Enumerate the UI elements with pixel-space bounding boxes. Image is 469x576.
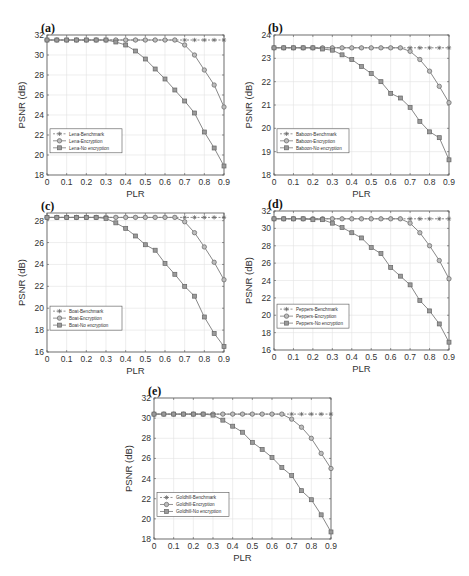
marker-square-icon — [55, 215, 59, 219]
y-tick-label: 26 — [142, 453, 152, 463]
y-tick-label: 20 — [262, 310, 272, 320]
marker-square-icon — [291, 217, 295, 221]
y-tick-label: 18 — [262, 328, 272, 338]
marker-square-icon — [398, 274, 402, 278]
marker-square-icon — [153, 67, 157, 71]
chart-panel-e: 00.10.20.30.40.50.60.70.80.9182022242628… — [123, 384, 337, 563]
x-tick-label: 0.8 — [198, 354, 210, 364]
y-tick-label: 22 — [35, 281, 45, 291]
marker-square-icon — [153, 248, 157, 252]
marker-square-icon — [134, 234, 138, 238]
marker-square-icon — [301, 46, 305, 50]
marker-star-icon — [57, 132, 61, 136]
marker-square-icon — [329, 530, 333, 534]
legend-entry: Lena-Encryption — [69, 139, 103, 144]
x-tick-label: 0.6 — [159, 354, 171, 364]
marker-star-icon — [192, 38, 196, 42]
marker-square-icon — [45, 215, 49, 219]
marker-circle-icon — [192, 231, 196, 235]
marker-square-icon — [182, 412, 186, 416]
x-tick-label: 0.5 — [139, 354, 151, 364]
marker-circle-icon — [340, 46, 344, 50]
marker-square-icon — [162, 412, 166, 416]
panel-label: (a) — [41, 21, 55, 35]
marker-circle-icon — [398, 46, 402, 50]
marker-square-icon — [143, 57, 147, 61]
x-tick-label: 0.4 — [346, 177, 358, 187]
marker-square-icon — [260, 447, 264, 451]
marker-circle-icon — [133, 38, 137, 42]
marker-circle-icon — [427, 244, 431, 248]
marker-star-icon — [182, 38, 186, 42]
marker-circle-icon — [340, 217, 344, 221]
marker-square-icon — [389, 265, 393, 269]
marker-circle-icon — [182, 220, 186, 224]
marker-square-icon — [84, 215, 88, 219]
marker-square-icon — [183, 284, 187, 288]
marker-square-icon — [222, 164, 226, 168]
marker-circle-icon — [437, 258, 441, 262]
marker-square-icon — [143, 243, 147, 247]
marker-star-icon — [212, 215, 216, 219]
marker-square-icon — [350, 231, 354, 235]
marker-circle-icon — [260, 412, 264, 416]
marker-square-icon — [428, 130, 432, 134]
x-tick-label: 0.5 — [365, 177, 377, 187]
marker-square-icon — [104, 216, 108, 220]
y-tick-label: 26 — [35, 238, 45, 248]
marker-star-icon — [289, 412, 293, 416]
marker-square-icon — [379, 252, 383, 256]
marker-square-icon — [319, 513, 323, 517]
marker-star-icon — [437, 217, 441, 221]
x-axis-label: PLR — [233, 552, 252, 563]
marker-square-icon — [285, 146, 289, 150]
marker-circle-icon — [319, 451, 323, 455]
x-tick-label: 0.3 — [100, 354, 112, 364]
marker-circle-icon — [388, 46, 392, 50]
marker-square-icon — [340, 53, 344, 57]
marker-square-icon — [428, 309, 432, 313]
x-tick-label: 0.9 — [325, 541, 337, 551]
x-tick-label: 0.2 — [187, 541, 199, 551]
x-tick-label: 0.2 — [80, 354, 92, 364]
x-tick-label: 0.7 — [179, 177, 191, 187]
x-tick-label: 0 — [272, 352, 277, 362]
marker-circle-icon — [418, 57, 422, 61]
x-tick-label: 0.1 — [288, 352, 300, 362]
marker-circle-icon — [398, 217, 402, 221]
x-tick-label: 0.4 — [346, 352, 358, 362]
marker-square-icon — [173, 272, 177, 276]
marker-circle-icon — [230, 412, 234, 416]
x-tick-label: 0.8 — [424, 352, 436, 362]
marker-square-icon — [65, 215, 69, 219]
marker-circle-icon — [350, 217, 354, 221]
marker-star-icon — [418, 217, 422, 221]
x-tick-label: 0.5 — [139, 177, 151, 187]
marker-circle-icon — [192, 53, 196, 57]
marker-star-icon — [437, 46, 441, 50]
marker-star-icon — [202, 38, 206, 42]
x-tick-label: 0.4 — [227, 541, 239, 551]
marker-circle-icon — [299, 425, 303, 429]
marker-square-icon — [211, 413, 215, 417]
marker-square-icon — [124, 43, 128, 47]
y-tick-label: 28 — [35, 216, 45, 226]
marker-square-icon — [447, 340, 451, 344]
marker-circle-icon — [153, 215, 157, 219]
panel-label: (b) — [268, 21, 283, 35]
marker-circle-icon — [212, 260, 216, 264]
x-tick-label: 0.4 — [120, 354, 132, 364]
marker-star-icon — [408, 217, 412, 221]
marker-circle-icon — [123, 38, 127, 42]
marker-square-icon — [84, 38, 88, 42]
x-tick-label: 0 — [152, 541, 157, 551]
x-tick-label: 0.4 — [120, 177, 132, 187]
legend-entry: Lena-No encryption — [69, 146, 110, 151]
marker-square-icon — [285, 321, 289, 325]
chart-panel-b: 00.10.20.30.40.50.60.70.80.9181920212223… — [243, 21, 455, 199]
legend-entry: Goldhill-Encryption — [176, 502, 215, 507]
x-tick-label: 0.5 — [246, 541, 258, 551]
marker-circle-icon — [57, 316, 61, 320]
chart-panel-d: 00.10.20.30.40.50.60.70.80.9161820222426… — [243, 197, 455, 374]
marker-square-icon — [202, 315, 206, 319]
